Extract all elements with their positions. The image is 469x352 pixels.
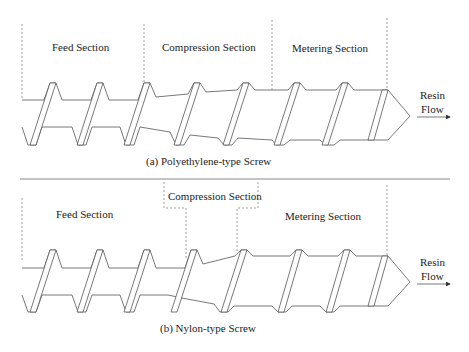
resin-label: Resin xyxy=(420,256,446,268)
feed-section-label: Feed Section xyxy=(52,41,110,53)
screw-root-upper xyxy=(22,250,410,306)
flow-label: Flow xyxy=(421,103,444,115)
screw-flights xyxy=(30,83,388,145)
screw-root-lower xyxy=(22,127,350,145)
screw-root-lower xyxy=(22,295,350,312)
flow-label: Flow xyxy=(421,270,444,282)
nylon-screw-panel: Feed Section Compression Section Meterin… xyxy=(22,182,450,335)
screw-root-upper xyxy=(22,83,410,140)
compression-section-label: Compression Section xyxy=(162,41,256,53)
polyethylene-screw-panel: Feed Section Compression Section Meterin… xyxy=(22,18,450,168)
caption-a: (a) Polyethylene-type Screw xyxy=(146,155,271,168)
metering-section-label: Metering Section xyxy=(292,42,369,54)
compression-section-label: Compression Section xyxy=(168,190,262,202)
resin-label: Resin xyxy=(420,89,446,101)
caption-b: (b) Nylon-type Screw xyxy=(160,322,256,335)
extruder-screw-diagram: Feed Section Compression Section Meterin… xyxy=(0,0,469,352)
feed-section-label: Feed Section xyxy=(56,208,114,220)
metering-section-label: Metering Section xyxy=(285,210,362,222)
